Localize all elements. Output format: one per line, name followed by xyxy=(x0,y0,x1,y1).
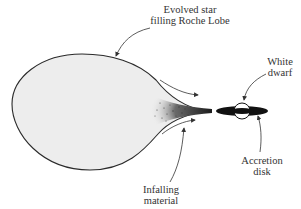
leader-infalling-material xyxy=(170,128,184,182)
label-white-dwarf: White dwarf xyxy=(262,56,298,78)
diagram-graphics xyxy=(0,0,301,209)
leader-evolved-star xyxy=(116,28,150,56)
roche-lobe-overflow-diagram: Evolved star filling Roche Lobe White dw… xyxy=(0,0,301,209)
label-infalling-material: Infalling material xyxy=(136,184,186,206)
leader-accretion-disk xyxy=(258,116,261,152)
label-evolved-star: Evolved star filling Roche Lobe xyxy=(150,4,230,26)
label-accretion-disk: Accretion disk xyxy=(232,155,292,177)
